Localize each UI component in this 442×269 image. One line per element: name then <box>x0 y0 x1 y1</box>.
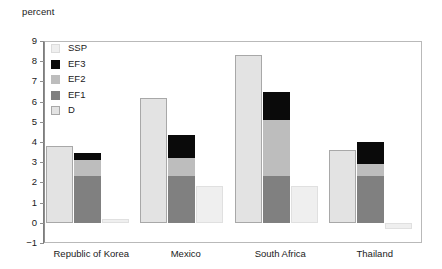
y-tick-label: 2 <box>32 175 37 188</box>
ef3-swatch <box>51 60 60 69</box>
bar-ef-2[interactable] <box>263 41 290 243</box>
bar-segment-d <box>235 55 262 223</box>
ssp-swatch <box>51 44 60 53</box>
bar-segment-ef1 <box>357 176 384 222</box>
x-axis-label-0: Republic of Korea <box>53 248 129 259</box>
bar-segment-d <box>329 150 356 223</box>
x-axis-label-3: Thailand <box>357 248 393 259</box>
legend-item-ssp[interactable]: SSP <box>51 42 125 55</box>
bar-segment-ef2 <box>357 164 384 176</box>
legend-item-ef3[interactable]: EF3 <box>51 58 125 71</box>
legend-label: EF2 <box>68 72 85 85</box>
bar-d-2[interactable] <box>235 41 262 243</box>
bar-d-3[interactable] <box>329 41 356 243</box>
bar-ssp-2[interactable] <box>291 41 318 243</box>
bar-segment-ef1 <box>74 176 101 222</box>
legend-item-d[interactable]: D <box>51 104 125 117</box>
chart-container: percent −10123456789 Republic of KoreaMe… <box>0 0 442 269</box>
bar-segment-ef1 <box>263 176 290 222</box>
y-tick-label: 7 <box>32 74 37 87</box>
ef2-swatch <box>51 75 60 84</box>
x-axis-label-2: South Africa <box>255 248 306 259</box>
y-tick-label: 6 <box>32 95 37 108</box>
bar-segment-ssp <box>102 219 129 223</box>
bar-segment-ef3 <box>168 135 195 158</box>
ef1-swatch <box>51 91 60 100</box>
bar-segment-ef1 <box>168 176 195 222</box>
bar-segment-ef3 <box>357 142 384 164</box>
bar-segment-ef2 <box>263 120 290 177</box>
bar-segment-ef2 <box>168 158 195 176</box>
bar-segment-ssp <box>291 186 318 222</box>
y-axis-title: percent <box>22 6 54 17</box>
bar-segment-ef2 <box>74 160 101 176</box>
chart-legend: SSPEF3EF2EF1D <box>51 42 125 120</box>
bar-d-1[interactable] <box>140 41 167 243</box>
bar-segment-ssp <box>196 186 223 222</box>
y-tick-mark <box>40 243 44 244</box>
y-tick-label: 9 <box>32 34 37 47</box>
bar-segment-ef3 <box>263 92 290 120</box>
bar-segment-ef3 <box>74 153 101 160</box>
legend-item-ef2[interactable]: EF2 <box>51 73 125 86</box>
bar-segment-d <box>140 98 167 223</box>
legend-label: EF1 <box>68 88 85 101</box>
legend-label: SSP <box>68 41 87 54</box>
legend-item-ef1[interactable]: EF1 <box>51 89 125 102</box>
y-tick-label: 3 <box>32 155 37 168</box>
y-tick-label: 5 <box>32 115 37 128</box>
bar-ef-1[interactable] <box>168 41 195 243</box>
legend-label: D <box>68 103 75 116</box>
legend-label: EF3 <box>68 57 85 70</box>
bar-ssp-3[interactable] <box>385 41 412 243</box>
bar-segment-ssp <box>385 223 412 229</box>
d-swatch <box>51 106 60 115</box>
y-tick-label: 4 <box>32 135 37 148</box>
y-tick-label: 1 <box>32 196 37 209</box>
bar-segment-d <box>46 146 73 223</box>
bar-ssp-1[interactable] <box>196 41 223 243</box>
x-axis-label-1: Mexico <box>171 248 201 259</box>
y-tick-label: −1 <box>26 236 37 249</box>
y-tick-label: 0 <box>32 216 37 229</box>
y-tick-label: 8 <box>32 54 37 67</box>
bar-ef-3[interactable] <box>357 41 384 243</box>
